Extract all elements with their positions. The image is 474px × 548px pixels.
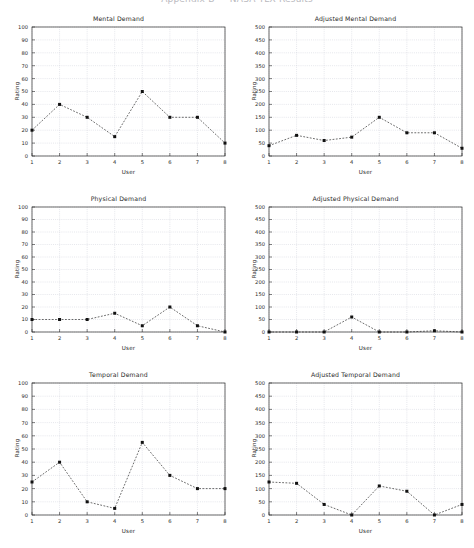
data-point-marker <box>268 481 271 484</box>
data-point-marker <box>141 441 144 444</box>
data-point-marker <box>86 116 89 119</box>
x-tick-label: 3 <box>85 335 88 341</box>
x-axis-label: User <box>269 345 462 351</box>
data-point-marker <box>141 90 144 93</box>
y-tick-label: 20 <box>21 304 28 310</box>
y-tick-label: 60 <box>21 433 28 439</box>
x-tick-label: 7 <box>433 518 436 524</box>
x-axis-label: User <box>32 528 225 534</box>
data-point-marker <box>58 461 61 464</box>
x-tick-label: 7 <box>196 518 199 524</box>
x-axis-label: User <box>32 345 225 351</box>
y-tick-label: 30 <box>21 114 28 120</box>
y-tick-label: 0 <box>262 329 265 335</box>
x-tick-label: 2 <box>295 335 298 341</box>
x-tick-label: 7 <box>433 335 436 341</box>
clipped-header-text: Appendix B — NASA TLX Results <box>0 0 474 4</box>
y-axis-label: Rating <box>251 433 257 463</box>
data-point-marker <box>224 487 227 490</box>
y-tick-label: 400 <box>255 50 265 56</box>
y-tick-label: 50 <box>258 316 265 322</box>
y-tick-label: 100 <box>18 380 28 386</box>
plot-area-mental-demand: 010203040506070809010012345678RatingUser <box>0 9 237 189</box>
data-point-marker <box>224 331 227 334</box>
data-point-marker <box>378 484 381 487</box>
x-tick-label: 8 <box>223 335 226 341</box>
y-tick-label: 500 <box>255 204 265 210</box>
x-tick-label: 6 <box>168 335 171 341</box>
chart-panel-mental-demand: Mental Demand 01020304050607080901001234… <box>0 9 237 189</box>
y-tick-label: 100 <box>18 24 28 30</box>
chart-panel-temporal-demand: Temporal Demand 010203040506070809010012… <box>0 365 237 548</box>
x-tick-label: 8 <box>223 159 226 165</box>
x-tick-label: 4 <box>113 518 117 524</box>
plot-area-temporal-demand: 010203040506070809010012345678RatingUser <box>0 365 237 548</box>
x-tick-label: 5 <box>378 518 381 524</box>
y-tick-label: 0 <box>262 512 265 518</box>
x-tick-label: 1 <box>267 518 270 524</box>
data-point-marker <box>58 318 61 321</box>
x-tick-label: 7 <box>196 335 199 341</box>
y-tick-label: 500 <box>255 24 265 30</box>
x-tick-label: 3 <box>322 159 325 165</box>
y-tick-label: 60 <box>21 76 28 82</box>
x-tick-label: 6 <box>168 518 171 524</box>
y-tick-label: 350 <box>255 241 265 247</box>
data-point-marker <box>323 503 326 506</box>
data-point-marker <box>113 312 116 315</box>
x-tick-label: 8 <box>460 518 463 524</box>
data-point-marker <box>378 116 381 119</box>
x-tick-label: 1 <box>30 335 33 341</box>
y-tick-label: 90 <box>21 216 28 222</box>
y-axis-label: Rating <box>14 254 20 284</box>
x-tick-label: 5 <box>141 518 144 524</box>
plot-svg: 05010015020025030035040045050012345678 <box>237 365 474 548</box>
chart-panel-adjusted-mental-demand: Adjusted Mental Demand 05010015020025030… <box>237 9 474 189</box>
y-tick-label: 0 <box>25 329 28 335</box>
x-tick-label: 8 <box>460 159 463 165</box>
data-point-marker <box>433 131 436 134</box>
data-point-marker <box>31 129 34 132</box>
x-tick-label: 2 <box>295 518 298 524</box>
x-tick-label: 4 <box>113 335 117 341</box>
chart-panel-adjusted-temporal-demand: Adjusted Temporal Demand 050100150200250… <box>237 365 474 548</box>
x-tick-label: 6 <box>168 159 171 165</box>
y-tick-label: 40 <box>21 279 28 285</box>
data-point-marker <box>196 487 199 490</box>
x-tick-label: 2 <box>58 518 61 524</box>
y-tick-label: 350 <box>255 63 265 69</box>
x-tick-label: 4 <box>113 159 117 165</box>
y-tick-label: 400 <box>255 229 265 235</box>
data-point-marker <box>323 331 326 334</box>
x-tick-label: 1 <box>30 159 33 165</box>
y-tick-label: 70 <box>21 420 28 426</box>
data-point-marker <box>461 147 464 150</box>
y-tick-label: 20 <box>21 486 28 492</box>
data-point-marker <box>113 507 116 510</box>
data-point-marker <box>323 139 326 142</box>
y-tick-label: 70 <box>21 241 28 247</box>
y-tick-label: 30 <box>21 291 28 297</box>
data-point-marker <box>86 318 89 321</box>
data-point-marker <box>224 142 227 145</box>
x-tick-label: 4 <box>350 518 354 524</box>
x-tick-label: 2 <box>295 159 298 165</box>
x-tick-label: 3 <box>322 518 325 524</box>
y-tick-label: 50 <box>21 88 28 94</box>
plot-svg: 05010015020025030035040045050012345678 <box>237 9 474 189</box>
plot-area-adjusted-physical-demand: 05010015020025030035040045050012345678Ra… <box>237 189 474 365</box>
data-point-marker <box>31 481 34 484</box>
plot-svg: 010203040506070809010012345678 <box>0 365 237 548</box>
y-tick-label: 80 <box>21 406 28 412</box>
chart-grid: Mental Demand 01020304050607080901001234… <box>0 9 474 548</box>
data-point-marker <box>350 136 353 139</box>
y-tick-label: 0 <box>25 512 28 518</box>
y-tick-label: 90 <box>21 37 28 43</box>
data-point-marker <box>405 131 408 134</box>
data-point-marker <box>378 331 381 334</box>
y-axis-label: Rating <box>251 254 257 284</box>
data-point-marker <box>461 331 464 334</box>
y-tick-label: 80 <box>21 50 28 56</box>
data-point-marker <box>268 331 271 334</box>
data-point-marker <box>168 306 171 309</box>
